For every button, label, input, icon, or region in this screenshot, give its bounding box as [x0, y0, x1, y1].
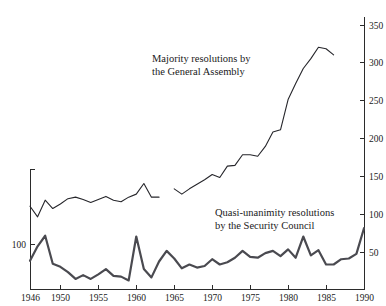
y-tick-label-300: 300	[369, 58, 384, 68]
chart-container: 1946195019551960196519701975198019851990…	[0, 0, 386, 306]
quasi-annotation-line1: Quasi-unanimity resolutions	[215, 207, 334, 218]
x-tick-label-1960: 1960	[127, 293, 146, 303]
y-tick-label-350: 350	[369, 21, 384, 31]
un-resolutions-line-chart: 1946195019551960196519701975198019851990…	[0, 0, 386, 306]
x-tick-label-1975: 1975	[241, 293, 260, 303]
right-y-axis-tick-labels: 50100150200250300350	[369, 21, 384, 258]
x-axis: 1946195019551960196519701975198019851990	[21, 285, 374, 303]
quasi-annotation-line2: by the Security Council	[215, 220, 315, 231]
x-tick-label-1990: 1990	[355, 293, 374, 303]
majority-annotation-line2: the General Assembly	[152, 66, 245, 77]
right-y-axis: 50100150200250300350	[360, 17, 384, 290]
y-tick-label-200: 200	[369, 134, 384, 144]
x-axis-tick-labels: 1946195019551960196519701975198019851990	[21, 293, 374, 303]
x-axis-ticks	[31, 285, 365, 290]
x-tick-label-1965: 1965	[165, 293, 184, 303]
majority-annotation-line1: Majority resolutions by	[152, 53, 251, 64]
x-tick-label-1985: 1985	[317, 293, 336, 303]
right-y-axis-ticks	[360, 26, 365, 253]
left-y-axis-label-100: 100	[12, 240, 27, 250]
y-tick-label-100: 100	[369, 210, 384, 220]
quasi-unanimity-annotation: Quasi-unanimity resolutions by the Secur…	[215, 207, 334, 231]
majority-resolutions-annotation: Majority resolutions by the General Asse…	[152, 53, 251, 77]
x-tick-label-1980: 1980	[279, 293, 298, 303]
x-tick-label-1950: 1950	[51, 293, 70, 303]
x-tick-label-1970: 1970	[203, 293, 222, 303]
series-line-quasi-unanimity-resolutions	[30, 228, 364, 280]
x-tick-label-1955: 1955	[89, 293, 108, 303]
x-tick-label-1946: 1946	[21, 293, 40, 303]
left-y-axis: 100	[12, 169, 35, 290]
y-tick-label-150: 150	[369, 172, 384, 182]
y-tick-label-50: 50	[369, 248, 379, 258]
y-tick-label-250: 250	[369, 96, 384, 106]
